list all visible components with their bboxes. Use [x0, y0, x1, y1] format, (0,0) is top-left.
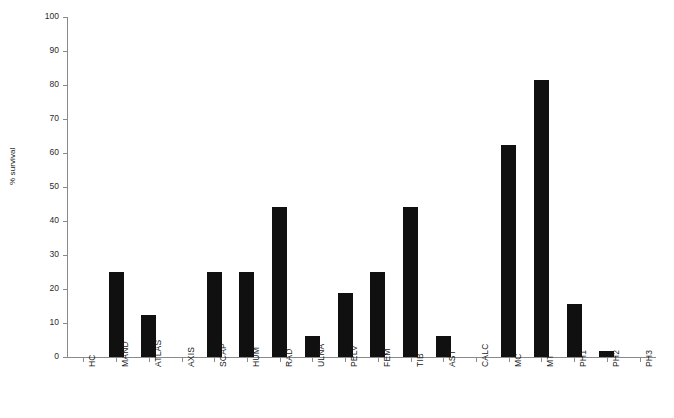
x-tick-mark	[312, 358, 313, 362]
x-tick-mark	[247, 358, 248, 362]
y-axis-title: % survival	[8, 65, 17, 185]
x-axis-label: ULNA	[316, 344, 326, 367]
x-axis-label: PH3	[644, 350, 654, 367]
y-tick: 20	[0, 289, 67, 290]
x-tick-mark	[574, 358, 575, 362]
y-tick-mark	[63, 357, 67, 358]
x-tick-mark	[83, 358, 84, 362]
bar	[239, 272, 254, 357]
x-axis-label: MAND	[120, 341, 130, 367]
x-axis-label: AXIS	[186, 347, 196, 367]
x-tick-mark	[214, 358, 215, 362]
x-axis-label: PH2	[611, 350, 621, 367]
y-tick-label: 50	[50, 181, 59, 191]
y-tick-label: 30	[50, 249, 59, 259]
bar	[534, 80, 549, 357]
x-tick-mark	[411, 358, 412, 362]
x-tick-mark	[509, 358, 510, 362]
y-tick: 50	[0, 187, 67, 188]
y-tick-label: 60	[50, 147, 59, 157]
y-tick-label: 100	[45, 11, 59, 21]
bar	[403, 207, 418, 357]
x-tick-mark	[607, 358, 608, 362]
x-tick-mark	[476, 358, 477, 362]
y-tick-label: 0	[54, 351, 59, 361]
bar-chart: % survival 0102030405060708090100 HCMAND…	[0, 0, 674, 418]
y-tick-label: 40	[50, 215, 59, 225]
y-tick-label: 10	[50, 317, 59, 327]
y-tick: 40	[0, 221, 67, 222]
x-axis-label: PH1	[578, 350, 588, 367]
x-tick-mark	[182, 358, 183, 362]
y-tick: 90	[0, 51, 67, 52]
bar	[501, 145, 516, 358]
x-axis-label: FEM	[382, 348, 392, 367]
y-tick: 30	[0, 255, 67, 256]
x-tick-mark	[378, 358, 379, 362]
x-tick-mark	[149, 358, 150, 362]
x-axis-label: RAD	[284, 348, 294, 367]
x-axis-label: HC	[87, 354, 97, 367]
x-axis-label: HUM	[251, 347, 261, 367]
y-tick: 60	[0, 153, 67, 154]
y-tick-label: 20	[50, 283, 59, 293]
x-axis-label: TIB	[415, 353, 425, 367]
x-axis-label: MC	[513, 353, 523, 367]
y-tick: 80	[0, 85, 67, 86]
y-tick: 70	[0, 119, 67, 120]
bar	[272, 207, 287, 357]
x-tick-mark	[640, 358, 641, 362]
x-axis-label: PELV	[349, 345, 359, 367]
bar	[370, 272, 385, 357]
x-tick-mark	[443, 358, 444, 362]
y-tick: 10	[0, 323, 67, 324]
x-axis-label: SCAP	[218, 343, 228, 367]
bars-layer	[67, 17, 656, 357]
x-tick-mark	[116, 358, 117, 362]
y-tick: 0	[0, 357, 67, 358]
x-axis-label: ATLAS	[153, 340, 163, 367]
x-tick-mark	[541, 358, 542, 362]
x-axis-label: AST	[447, 350, 457, 367]
y-tick-label: 90	[50, 45, 59, 55]
x-axis-label: MT	[545, 354, 555, 367]
x-tick-mark	[345, 358, 346, 362]
x-axis-label: CALC	[480, 344, 490, 367]
y-tick-label: 70	[50, 113, 59, 123]
y-tick-label: 80	[50, 79, 59, 89]
x-tick-mark	[280, 358, 281, 362]
y-tick: 100	[0, 17, 67, 18]
